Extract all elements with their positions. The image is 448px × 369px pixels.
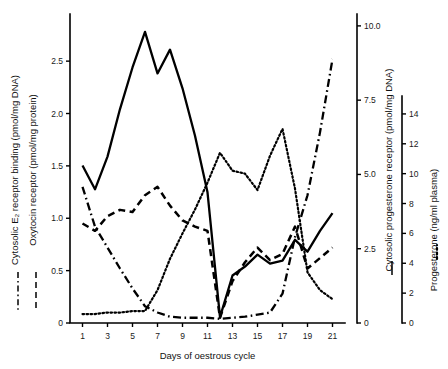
x-axis-ticklabel: 3 <box>105 331 110 341</box>
x-axis-ticklabel: 15 <box>253 331 263 341</box>
oestrous-cycle-multi-axis-line-chart: 00.51.01.52.02.513579111315171921Days of… <box>0 0 448 369</box>
right-outer-axis-ticklabel: 12 <box>409 139 419 149</box>
x-axis-ticklabel: 9 <box>180 331 185 341</box>
right-outer-axis-title: Progesterone (ng/ml plasma) <box>428 169 439 292</box>
x-axis-ticklabel: 13 <box>228 331 238 341</box>
left-axis-ticklabel: 0.5 <box>51 266 63 276</box>
right-inner-axis-ticklabel: 0 <box>364 318 369 328</box>
series-line-progesterone-receptor <box>83 32 333 317</box>
x-axis-title: Days of oestrous cycle <box>160 350 256 361</box>
x-axis-ticklabel: 11 <box>203 331 212 341</box>
right-outer-axis-ticklabel: 8 <box>409 199 414 209</box>
x-axis-ticklabel: 19 <box>303 331 313 341</box>
right-inner-axis-title: Cytosolic progesterone receptor (pmol/mg… <box>383 69 394 272</box>
left-inner-axis-title: Oxytocin receptor (pmol/mg protein) <box>27 94 38 246</box>
right-inner-axis-ticklabel: 5.0 <box>364 169 376 179</box>
x-axis-ticklabel: 17 <box>278 331 288 341</box>
right-outer-axis-ticklabel: 14 <box>409 109 419 119</box>
right-outer-axis-ticklabel: 0 <box>409 318 414 328</box>
left-axis-ticklabel: 2.0 <box>51 109 63 119</box>
series-line-progesterone <box>83 129 333 314</box>
x-axis-ticklabel: 1 <box>80 331 85 341</box>
main-axis-frame <box>70 14 345 323</box>
right-inner-axis-ticklabel: 7.5 <box>364 95 376 105</box>
x-axis-ticklabel: 5 <box>130 331 135 341</box>
right-inner-axis-ticklabel: 2.5 <box>364 244 376 254</box>
series-line-oxytocin-receptor <box>83 187 333 318</box>
x-axis-ticklabel: 7 <box>155 331 160 341</box>
left-outer-axis-title: Cytosolic E₂ receptor binding (pmol/mg D… <box>9 75 20 265</box>
right-inner-axis-ticklabel: 10.0 <box>364 21 381 31</box>
x-axis-ticklabel: 21 <box>328 331 338 341</box>
right-outer-axis-ticklabel: 10 <box>409 169 419 179</box>
left-axis-ticklabel: 0 <box>58 318 63 328</box>
right-outer-axis-ticklabel: 6 <box>409 228 414 238</box>
left-axis-ticklabel: 2.5 <box>51 56 63 66</box>
left-axis-ticklabel: 1.5 <box>51 161 63 171</box>
chart-figure: 00.51.01.52.02.513579111315171921Days of… <box>0 0 448 369</box>
right-outer-axis-ticklabel: 2 <box>409 288 414 298</box>
right-outer-axis-ticklabel: 4 <box>409 258 414 268</box>
left-axis-ticklabel: 1.0 <box>51 213 63 223</box>
